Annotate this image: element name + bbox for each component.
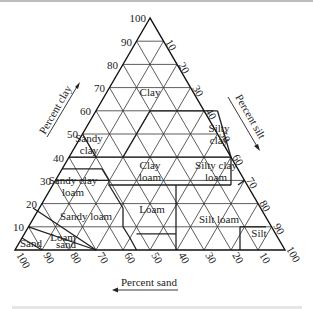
svg-text:60: 60 [80, 105, 92, 117]
svg-text:100: 100 [130, 12, 147, 24]
svg-text:Silt loam: Silt loam [199, 213, 239, 225]
sand-axis-title: Percent sand [112, 276, 178, 293]
svg-text:70: 70 [244, 175, 260, 191]
svg-text:90: 90 [271, 221, 287, 237]
silt-axis-title: Percent silt [228, 92, 268, 151]
svg-text:Silty: Silty [209, 122, 230, 134]
svg-text:Percent sand: Percent sand [121, 276, 177, 288]
svg-text:70: 70 [94, 82, 106, 94]
svg-text:20: 20 [26, 198, 38, 210]
sand-axis-ticks: 100 90 80 70 60 50 40 30 20 10 [14, 250, 273, 271]
svg-text:40: 40 [176, 250, 192, 266]
soil-texture-triangle: 10 20 30 40 50 60 70 80 90 100 10 20 30 … [0, 0, 313, 309]
svg-text:20: 20 [176, 60, 192, 76]
svg-text:Loam: Loam [139, 203, 165, 215]
silt-axis-ticks: 10 20 30 40 50 60 70 80 90 100 [163, 37, 303, 265]
arrow-left-icon [112, 288, 118, 293]
svg-text:Sandy loam: Sandy loam [60, 210, 113, 222]
svg-text:90: 90 [41, 250, 57, 266]
svg-text:Sandy clay: Sandy clay [49, 174, 98, 186]
arrow-down-icon [254, 144, 260, 151]
svg-text:Clay: Clay [140, 86, 161, 98]
svg-text:Sandy: Sandy [75, 132, 103, 144]
svg-text:70: 70 [95, 250, 111, 266]
svg-text:10: 10 [163, 37, 179, 53]
svg-text:80: 80 [257, 198, 273, 214]
svg-text:Sand: Sand [20, 237, 43, 249]
svg-text:100: 100 [284, 244, 303, 265]
svg-text:Clay: Clay [140, 159, 161, 171]
svg-text:30: 30 [203, 250, 219, 266]
svg-text:loam: loam [139, 171, 161, 183]
svg-text:clay: clay [210, 134, 229, 146]
svg-text:sand: sand [56, 238, 77, 250]
svg-text:10: 10 [13, 221, 25, 233]
svg-text:40: 40 [203, 106, 219, 122]
svg-text:loam: loam [62, 186, 84, 198]
svg-text:80: 80 [68, 250, 84, 266]
svg-text:Percent silt: Percent silt [233, 92, 268, 141]
svg-text:loam: loam [205, 171, 227, 183]
svg-text:10: 10 [257, 250, 273, 266]
svg-text:90: 90 [121, 36, 133, 48]
svg-text:20: 20 [230, 250, 246, 266]
svg-text:60: 60 [122, 250, 138, 266]
svg-text:50: 50 [149, 250, 165, 266]
svg-text:40: 40 [53, 152, 65, 164]
svg-text:Silty clay: Silty clay [195, 159, 237, 171]
clay-axis-ticks: 10 20 30 40 50 60 70 80 90 100 [13, 12, 147, 233]
svg-text:Silt: Silt [251, 227, 266, 239]
svg-text:clay: clay [80, 144, 99, 156]
svg-text:100: 100 [14, 250, 33, 271]
svg-text:80: 80 [107, 59, 119, 71]
svg-text:30: 30 [190, 83, 206, 99]
